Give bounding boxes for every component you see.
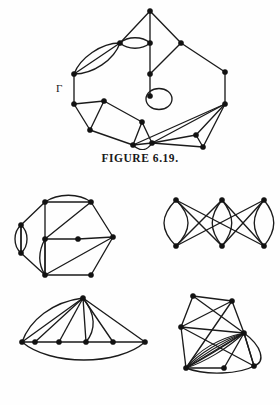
figure-6-19-caption: FIGURE 6.19.: [0, 152, 280, 164]
gamma-label: Γ: [56, 82, 62, 94]
subfigure-top-right: [164, 200, 274, 246]
subfigure-bottom-right: [181, 296, 261, 373]
figure-6-20-graph: [0, 180, 280, 376]
self-loop: [146, 89, 172, 110]
figure-6-20: FIGURE 6.20.: [0, 180, 280, 405]
subfigure-top-left: [15, 195, 113, 275]
figure-6-19: Γ FIGURE 6.19.: [0, 0, 280, 176]
subfigure-bottom-left: [22, 298, 145, 360]
page-canvas: Γ FIGURE 6.19.: [0, 0, 280, 405]
figure-6-19-edges: [74, 11, 225, 150]
figure-6-19-graph: Γ: [0, 0, 280, 150]
